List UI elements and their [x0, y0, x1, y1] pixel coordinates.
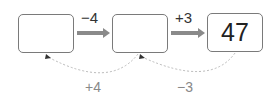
- forward-arrow-2: [171, 28, 205, 38]
- forward-op-label-2: +3: [175, 9, 192, 26]
- box-value: 47: [221, 18, 249, 47]
- number-box-2[interactable]: [112, 14, 168, 53]
- backward-arc-1: [48, 54, 138, 73]
- backward-op-label-1: +4: [85, 79, 101, 95]
- forward-op-label-1: −4: [81, 9, 98, 26]
- backward-op-label-2: −3: [177, 79, 193, 95]
- forward-arrow-1: [77, 28, 110, 38]
- backward-arc-2: [142, 53, 235, 72]
- backward-arrowhead-2: [139, 54, 145, 59]
- number-box-3: 47: [207, 13, 263, 52]
- number-box-1[interactable]: [18, 14, 74, 53]
